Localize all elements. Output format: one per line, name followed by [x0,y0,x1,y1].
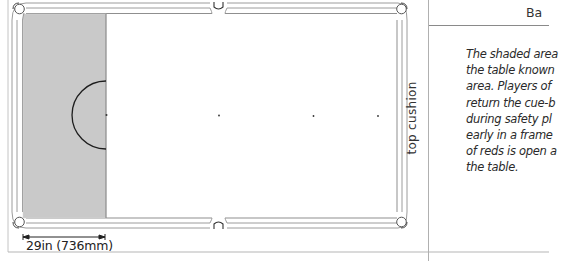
caption-line: early in a frame [466,127,563,143]
caption-line: area. Players of [466,78,563,94]
black-spot [377,115,379,117]
caption-header-label: Ba [526,5,542,20]
pocket-top-middle [214,2,223,9]
pink-spot [313,115,315,117]
pocket-bottom-right [397,217,407,227]
caption-line: The shaded area [466,46,563,62]
dimension-label: 29in (736mm) [26,238,113,253]
caption-line: of reds is open a [466,143,563,159]
caption-column: Ba The shaded area the table known area.… [429,0,549,261]
caption-line: during safety pl [466,111,563,127]
caption-line: the table. [466,159,563,175]
caption-line: the table known [466,62,563,78]
table-spots [106,114,379,117]
caption-header: Ba [429,0,549,26]
brown-spot [106,114,108,116]
pocket-bottom-left [15,217,25,227]
pocket-top-right [397,4,407,14]
pocket-bottom-middle [214,222,223,229]
pocket-top-left [15,4,25,14]
top-cushion-label: top cushion [405,78,421,158]
baulk-area-shading [23,14,106,218]
blue-spot [218,115,220,117]
caption-line: return the cue-b [466,95,563,111]
caption-text: The shaded area the table known area. Pl… [466,46,563,176]
